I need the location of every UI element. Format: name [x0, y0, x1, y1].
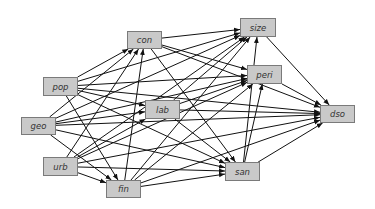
- edges-layer: [50, 29, 330, 186]
- node-dso: dso: [320, 105, 355, 123]
- edge-fin-to-san: [141, 174, 225, 186]
- node-geo: geo: [21, 117, 56, 135]
- edge-urb-to-san: [78, 167, 225, 171]
- node-lab: lab: [145, 100, 180, 119]
- edge-pop-to-con: [78, 49, 129, 77]
- node-san: san: [225, 162, 260, 181]
- edge-con-to-dso: [162, 47, 320, 108]
- node-peri: peri: [247, 65, 282, 84]
- edge-lab-to-peri: [180, 81, 247, 104]
- node-size: size: [240, 18, 276, 37]
- edge-lab-to-size: [174, 37, 247, 100]
- edge-urb-to-dso: [78, 117, 320, 163]
- edge-san-to-dso: [258, 123, 322, 162]
- edge-urb-to-fin: [78, 173, 106, 183]
- node-con: con: [127, 31, 162, 49]
- edge-geo-to-dso: [56, 115, 320, 126]
- edge-con-to-peri: [162, 45, 247, 69]
- node-urb: urb: [43, 157, 78, 176]
- path-diagram: [0, 0, 375, 209]
- node-fin: fin: [106, 180, 141, 198]
- node-pop: pop: [43, 77, 78, 96]
- edge-urb-to-size: [74, 37, 245, 157]
